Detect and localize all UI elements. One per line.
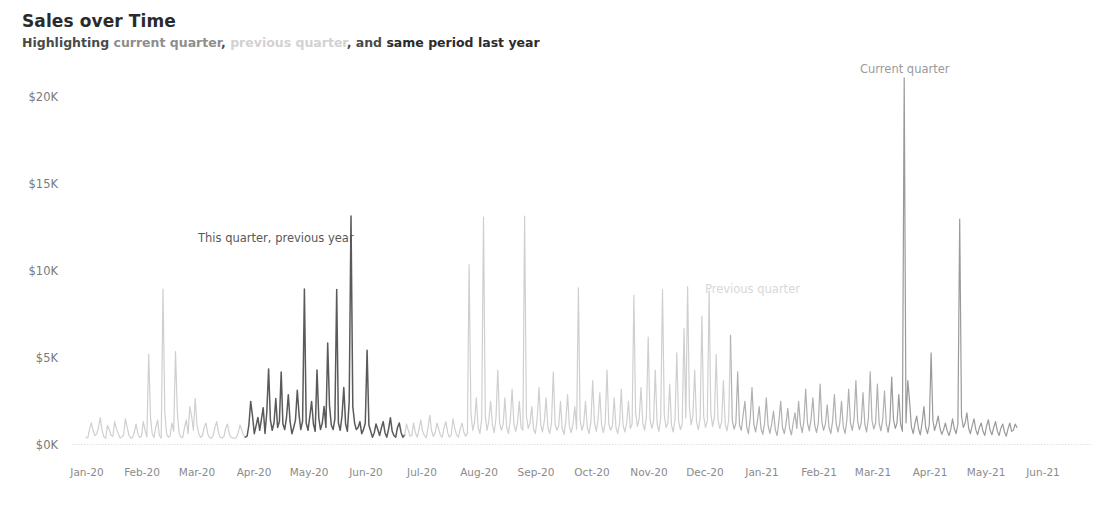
annotation-current-quarter: Current quarter	[860, 62, 950, 76]
series-segment-default-early	[86, 289, 245, 438]
annotation-previous-quarter: Previous quarter	[705, 282, 800, 296]
sales-over-time-chart: Sales over Time Highlighting current qua…	[0, 0, 1111, 506]
series-segment-same-period-last-year	[245, 216, 404, 437]
series-segment-previous-quarter	[731, 335, 889, 435]
annotation-same-period-last-year: This quarter, previous year	[198, 231, 354, 245]
series-segment-default-mid	[405, 216, 731, 438]
series-segment-current-quarter	[888, 78, 1017, 436]
x-axis-tick-17: Jun-21	[1008, 466, 1078, 478]
